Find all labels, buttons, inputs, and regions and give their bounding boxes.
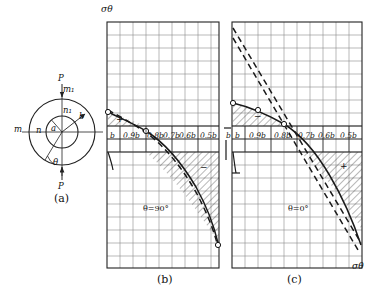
label-force-p-bottom: P [58,182,64,191]
chart-c-left-tail [233,152,236,173]
label-m-left: m [14,125,22,134]
chart-b-tick-label-0: b [110,132,115,140]
label-radius-a: a [51,124,56,133]
label-m1-top: m₁ [63,85,74,94]
caption-c: (c) [287,274,302,285]
label-n1-top: n₁ [63,106,72,115]
label-radius-b: b [79,112,84,121]
sigma-theta-top-label: σθ [101,5,113,14]
chart-c-sign-negative: − [254,112,262,121]
chart-b-tick-label-3: 0.7b [163,132,180,140]
chart-c-tick-label-2: 0.8b [274,132,291,140]
chart-b-marker-3 [215,242,220,247]
chart-b-tick-label-5: 0.5b [200,132,217,140]
figure-canvas [0,0,384,302]
chart-c-marker-3 [281,121,286,126]
caption-b: (b) [157,274,173,285]
chart-b-left-tail [108,152,113,170]
caption-a: (a) [54,193,69,204]
chart-c-sign-positive: + [340,162,348,171]
chart-c-tick-label-4: 0.6b [318,132,335,140]
chart-c-angle-title: θ=0° [288,205,309,213]
chart-b-tick-label-1: 0.9b [123,132,140,140]
label-theta-angle: θ [53,158,58,167]
chart-c-marker-1 [230,100,235,105]
chart-b-tick-label-2: 0.8b [147,132,164,140]
chart-c-tick-label-b-left: b [226,132,231,140]
chart-c-tick-label-0: b [235,132,240,140]
diagram-a-group [22,84,103,180]
label-force-p-top: P [58,74,64,83]
chart-b-vertical-gridlines [120,22,211,268]
chart-b-sign-positive: + [116,115,124,124]
chart-b-horizontal-gridlines [107,35,219,256]
chart-c-tick-label-1: 0.9b [249,132,266,140]
chart-c-dashed-curve-2 [233,38,358,250]
chart-b-angle-title: θ=90° [143,205,169,213]
theta-radial-line [45,132,62,160]
chart-c-tick-label-5: 0.5b [340,132,357,140]
chart-b-marker-1 [105,109,110,114]
label-n-left: n [36,126,41,135]
chart-b-tick-label-4: 0.6b [179,132,196,140]
chart-c-tick-label-3: 0.7b [298,132,315,140]
chart-b-sign-negative: − [200,163,208,172]
sigma-theta-bottom-label: σθ [352,262,364,271]
chart-b-group [105,22,220,268]
